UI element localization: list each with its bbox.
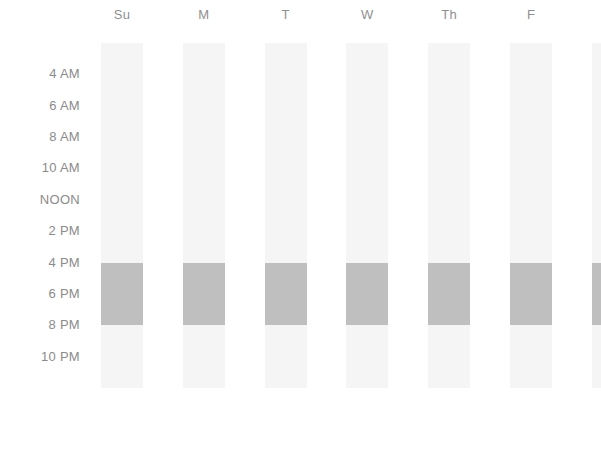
day-header-f: F (510, 6, 552, 24)
day-column-f (510, 43, 552, 388)
day-column-su (101, 43, 143, 388)
time-label-12: NOON (6, 193, 80, 207)
day-header-th: Th (428, 6, 470, 24)
time-label-20: 8 PM (6, 318, 80, 332)
day-column-w (346, 43, 388, 388)
day-column-t (265, 43, 307, 388)
time-label-22: 10 PM (6, 350, 80, 364)
time-label-6: 6 AM (6, 99, 80, 113)
time-label-10: 10 AM (6, 161, 80, 175)
eat-band-f (510, 263, 552, 326)
day-header-s: S (592, 6, 601, 24)
time-label-16: 4 PM (6, 256, 80, 270)
chart-legend: Eat Fast (0, 414, 601, 457)
day-column-s (592, 43, 601, 388)
time-label-18: 6 PM (6, 287, 80, 301)
time-label-8: 8 AM (6, 130, 80, 144)
eat-band-m (183, 263, 225, 326)
eat-band-t (265, 263, 307, 326)
day-header-m: M (183, 6, 225, 24)
time-label-14: 2 PM (6, 224, 80, 238)
eat-band-s (592, 263, 601, 326)
day-header-w: W (346, 6, 388, 24)
day-column-m (183, 43, 225, 388)
eat-band-su (101, 263, 143, 326)
day-header-su: Su (101, 6, 143, 24)
fasting-schedule-chart: SuMTWThFS 4 AM6 AM8 AM10 AMNOON2 PM4 PM6… (0, 0, 601, 457)
day-column-th (428, 43, 470, 388)
day-header-t: T (265, 6, 307, 24)
eat-band-w (346, 263, 388, 326)
eat-band-th (428, 263, 470, 326)
time-label-4: 4 AM (6, 67, 80, 81)
